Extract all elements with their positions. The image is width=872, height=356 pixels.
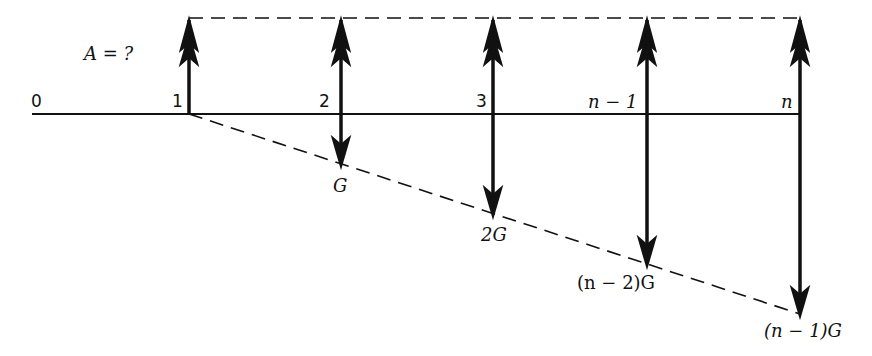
gradient-arrows: [334, 114, 807, 314]
period-label-1: 1: [172, 93, 183, 110]
period-label-n-minus-1: n − 1: [588, 93, 638, 111]
period-label-2: 2: [319, 93, 330, 110]
gradient-label-n-minus-1-g: (n − 1)G: [764, 322, 842, 340]
gradient-label-2g: 2G: [481, 226, 507, 244]
uniform-arrows: [182, 20, 807, 114]
gradient-label-n-minus-2-g: (n − 2)G: [577, 274, 655, 292]
gradient-label-g: G: [333, 177, 347, 195]
period-label-n: n: [781, 93, 793, 111]
cash-flow-diagram: A = ? 0 1 2 3 n − 1 n G 2G (n − 2)G (n −…: [0, 0, 872, 356]
period-label-0: 0: [31, 93, 42, 110]
unknown-annuity-label: A = ?: [84, 45, 133, 63]
period-label-3: 3: [476, 93, 487, 110]
